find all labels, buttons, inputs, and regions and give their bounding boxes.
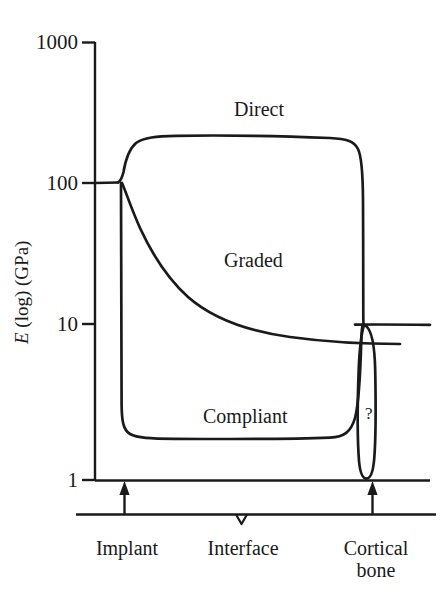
y-tick-label-100: 100 — [47, 173, 79, 194]
curve-label-direct: Direct — [234, 99, 284, 119]
y-tick-label-10: 10 — [57, 314, 78, 335]
implant-arrow-head — [119, 481, 129, 495]
curve-uncertain-loop — [358, 324, 376, 478]
y-tick-label-1: 1 — [68, 470, 79, 491]
region-label-interface: Interface — [196, 537, 290, 559]
curve-compliant — [121, 183, 363, 439]
bracket-center-notch — [236, 515, 247, 525]
curve-direct — [118, 136, 364, 325]
region-label-cortical-line1: Cortical — [344, 537, 408, 559]
cortical-arrow-head — [367, 481, 377, 495]
curve-origin-stub — [95, 183, 118, 184]
y-axis — [82, 42, 95, 481]
y-tick-label-1000: 1000 — [36, 32, 78, 53]
region-label-cortical-bone: Corticalbone — [330, 537, 422, 582]
region-label-implant: Implant — [82, 537, 172, 559]
y-axis-title: E (log) (GPa) — [12, 241, 31, 344]
y-axis-title-symbol: E — [11, 332, 32, 344]
y-axis-title-units: (log) (GPa) — [11, 241, 32, 333]
curve-label-uncertain: ? — [365, 405, 373, 422]
curve-label-compliant: Compliant — [203, 406, 287, 426]
region-bracket — [76, 481, 436, 524]
region-label-cortical-line2: bone — [357, 559, 396, 581]
curve-label-graded: Graded — [224, 250, 283, 270]
modulus-profile-chart — [0, 0, 443, 604]
